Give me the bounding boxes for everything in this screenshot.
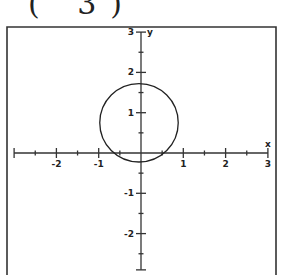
y-tick-label: 2 [128, 67, 134, 77]
y-axis-label: y [147, 27, 153, 37]
x-tick-label: 3 [265, 159, 271, 169]
y-tick-label: 3 [128, 27, 134, 37]
plot-area: -2-1123321-1-2 x y [0, 0, 281, 275]
x-tick-label: -2 [51, 159, 61, 169]
x-axis-label: x [265, 139, 271, 149]
y-tick-label: 1 [128, 108, 134, 118]
y-tick-label: -2 [124, 229, 134, 239]
circle-curve [100, 84, 178, 162]
tick-labels: -2-1123321-1-2 [51, 27, 271, 239]
x-tick-label: -1 [94, 159, 104, 169]
x-tick-label: 2 [222, 159, 228, 169]
y-tick-label: -1 [124, 188, 134, 198]
x-tick-label: 1 [180, 159, 186, 169]
